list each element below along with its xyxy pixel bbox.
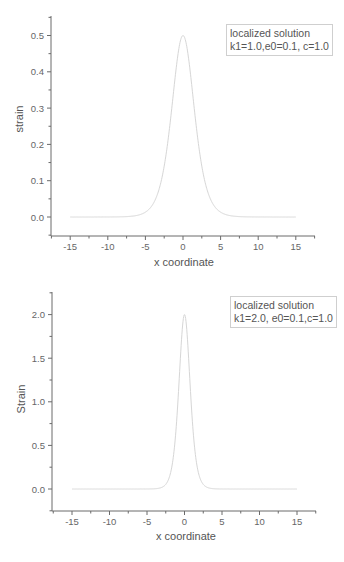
x-axis-label: x coordinate xyxy=(154,256,214,268)
x-tick-label: -5 xyxy=(143,516,151,527)
chart-strain-k1-1: -15-10-50510150.00.10.20.30.40.5 localiz… xyxy=(0,0,344,280)
y-tick-label: 0.3 xyxy=(31,103,44,114)
legend: localized solution k1=2.0, e0=0.1,c=1.0 xyxy=(230,296,337,328)
chart-strain-k1-2: -15-10-50510150.00.51.01.52.0 localized … xyxy=(0,280,344,562)
legend-line-2: k1=1.0,e0=0.1, c=1.0 xyxy=(230,40,329,53)
x-tick-label: 15 xyxy=(291,241,302,252)
x-tick-label: 15 xyxy=(292,516,303,527)
x-tick-label: 5 xyxy=(219,516,224,527)
x-tick-label: 10 xyxy=(254,516,265,527)
x-tick-label: -5 xyxy=(141,241,149,252)
data-curve xyxy=(70,36,296,218)
x-tick-label: 5 xyxy=(218,241,223,252)
x-tick-label: -10 xyxy=(103,516,117,527)
y-tick-label: 0.0 xyxy=(32,484,45,495)
y-tick-label: 1.0 xyxy=(32,396,45,407)
y-tick-label: 0.5 xyxy=(31,30,44,41)
y-tick-label: 0.2 xyxy=(31,139,44,150)
y-tick-label: 0.5 xyxy=(32,440,45,451)
x-axis-label: x coordinate xyxy=(156,530,216,542)
x-tick-label: 10 xyxy=(253,241,264,252)
legend: localized solution k1=1.0,e0=0.1, c=1.0 xyxy=(226,24,333,56)
legend-line-1: localized solution xyxy=(234,299,333,312)
x-tick-label: -15 xyxy=(65,516,79,527)
y-tick-label: 2.0 xyxy=(32,309,45,320)
x-tick-label: -10 xyxy=(101,241,115,252)
y-tick-label: 0.1 xyxy=(31,175,44,186)
legend-line-2: k1=2.0, e0=0.1,c=1.0 xyxy=(234,312,333,325)
y-tick-label: 1.5 xyxy=(32,353,45,364)
legend-line-1: localized solution xyxy=(230,27,329,40)
y-tick-label: 0.4 xyxy=(31,66,44,77)
y-axis-label: Strain xyxy=(15,382,27,416)
x-tick-label: -15 xyxy=(63,241,77,252)
x-tick-label: 0 xyxy=(182,516,187,527)
y-axis-label: strain xyxy=(13,102,25,136)
data-curve xyxy=(72,315,297,489)
x-tick-label: 0 xyxy=(180,241,185,252)
y-tick-label: 0.0 xyxy=(31,212,44,223)
